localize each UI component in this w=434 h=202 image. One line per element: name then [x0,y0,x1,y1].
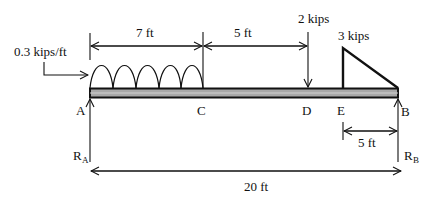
triangular-load [343,48,398,88]
svg-text:B: B [413,155,419,165]
dim-label-e-b: 5 ft [358,135,376,150]
beam-diagram: 0.3 kips/ft 7 ft 5 ft 2 kips 3 kips A C … [0,0,434,202]
reaction-a-label: R A [73,148,89,165]
svg-text:A: A [82,155,89,165]
point-d-label: D [302,103,311,118]
distributed-load-label: 0.3 kips/ft [14,44,67,59]
point-e-label: E [337,103,345,118]
triangular-load-label: 3 kips [338,28,369,43]
point-b-label: B [401,104,410,119]
svg-text:R: R [73,148,82,163]
dim-label-c-d: 5 ft [234,25,252,40]
dim-label-a-c: 7 ft [136,25,154,40]
point-c-label: C [197,103,206,118]
distributed-load-pointer-arrow [44,62,88,75]
dim-label-total: 20 ft [244,179,269,194]
distributed-load [90,66,203,89]
reaction-b-label: R B [404,148,419,165]
point-a-label: A [76,103,86,118]
point-load-label: 2 kips [298,11,329,26]
svg-text:R: R [404,148,413,163]
